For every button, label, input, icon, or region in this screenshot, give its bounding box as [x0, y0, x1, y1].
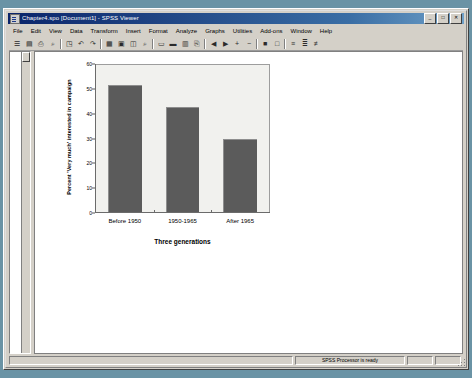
bar-chart[interactable]: Percent 'Very much' interested in campai…: [65, 60, 270, 255]
title-bar[interactable]: Chapter4.spo [Document1] - SPSS Viewer _…: [8, 13, 464, 24]
menu-data[interactable]: Data: [66, 27, 87, 36]
align-right-icon[interactable]: ≢: [311, 38, 323, 49]
redo-glyph: ↷: [90, 40, 96, 47]
bar-series: [96, 65, 269, 213]
viewer-client-area: Percent 'Very much' interested in campai…: [9, 51, 463, 354]
window-inner-frame: Chapter4.spo [Document1] - SPSS Viewer _…: [5, 10, 467, 368]
align-center-icon[interactable]: ≣: [299, 38, 311, 49]
bar[interactable]: [223, 139, 256, 213]
status-cell-1: [407, 356, 433, 365]
menu-format[interactable]: Format: [145, 27, 172, 36]
insert-text-glyph: ▥: [182, 40, 189, 47]
x-axis-ticks: Before 19501950-1965After 1965: [96, 213, 269, 225]
goto-case-glyph: ▣: [118, 40, 125, 47]
resize-grip[interactable]: [456, 357, 465, 366]
menu-add-ons[interactable]: Add-ons: [256, 27, 286, 36]
status-message: [9, 356, 293, 365]
insert-heading-glyph: ▭: [158, 40, 165, 47]
minimize-icon: _: [429, 15, 432, 20]
undo-icon[interactable]: ↶: [75, 38, 87, 49]
demote-glyph: ▶: [223, 40, 228, 47]
align-left-icon[interactable]: ≡: [287, 38, 299, 49]
align-right-glyph: ≢: [314, 40, 321, 47]
desktop-background: Chapter4.spo [Document1] - SPSS Viewer _…: [0, 0, 472, 378]
save-glyph: ▤: [26, 40, 33, 47]
maximize-icon: □: [441, 15, 444, 20]
close-button[interactable]: ✕: [450, 13, 462, 24]
menu-view[interactable]: View: [45, 27, 66, 36]
x-tick-label: After 1965: [211, 217, 269, 225]
find-icon[interactable]: ⌕: [139, 38, 151, 49]
goto-case-icon[interactable]: ▣: [115, 38, 127, 49]
x-tick-label: 1950-1965: [154, 217, 212, 225]
toolbar: ☰ ▤ ⎙ ⌕ ◳ ↶ ↷ ▦ ▣ ◫ ⌕ ▭ ▬ ▥ ⎘ ◀ ▶: [9, 37, 463, 51]
insert-title-icon[interactable]: ▬: [167, 38, 179, 49]
window-control-buttons: _ □ ✕: [424, 13, 463, 24]
find-glyph: ⌕: [143, 40, 147, 47]
align-left-glyph: ≡: [291, 40, 295, 47]
maximize-button[interactable]: □: [437, 13, 449, 24]
menu-insert[interactable]: Insert: [122, 27, 145, 36]
menu-transform[interactable]: Transform: [87, 27, 122, 36]
expand-icon[interactable]: +: [231, 38, 243, 49]
bar-slot: [154, 65, 212, 213]
export-icon[interactable]: ⎘: [191, 38, 203, 49]
show-glyph: ■: [263, 40, 267, 47]
expand-glyph: +: [235, 40, 239, 47]
undo-glyph: ↶: [78, 40, 84, 47]
print-preview-icon[interactable]: ⌕: [47, 38, 59, 49]
print-icon[interactable]: ⎙: [35, 38, 47, 49]
show-icon[interactable]: ■: [259, 38, 271, 49]
spss-viewer-icon: [10, 14, 20, 24]
x-tick-mark: [154, 210, 155, 213]
outline-pane[interactable]: [9, 51, 31, 354]
status-bar: SPSS Processor is ready: [9, 355, 463, 365]
menu-edit[interactable]: Edit: [27, 27, 45, 36]
outline-scrollbar-thumb[interactable]: [22, 52, 30, 62]
collapse-icon[interactable]: −: [243, 38, 255, 49]
menu-graphs[interactable]: Graphs: [201, 27, 229, 36]
outline-scrollbar[interactable]: [21, 52, 30, 353]
x-axis-title: Three generations: [95, 238, 270, 245]
menu-help[interactable]: Help: [316, 27, 336, 36]
menu-file[interactable]: File: [9, 27, 27, 36]
goto-data-icon[interactable]: ▦: [103, 38, 115, 49]
variables-icon[interactable]: ◫: [127, 38, 139, 49]
output-document-pane[interactable]: Percent 'Very much' interested in campai…: [34, 51, 463, 354]
minimize-button[interactable]: _: [424, 13, 436, 24]
align-center-glyph: ≣: [302, 40, 308, 47]
print-glyph: ⎙: [38, 40, 44, 47]
spss-viewer-window: Chapter4.spo [Document1] - SPSS Viewer _…: [3, 8, 469, 370]
window-title: Chapter4.spo [Document1] - SPSS Viewer: [22, 15, 424, 22]
redo-icon[interactable]: ↷: [87, 38, 99, 49]
insert-heading-icon[interactable]: ▭: [155, 38, 167, 49]
bar-slot: [211, 65, 269, 213]
status-processor-ready: SPSS Processor is ready: [295, 356, 405, 365]
print-preview-glyph: ⌕: [51, 40, 55, 47]
y-axis-ticks: 0102030405060: [75, 64, 95, 213]
x-tick-mark: [211, 210, 212, 213]
promote-glyph: ◀: [211, 40, 216, 47]
demote-icon[interactable]: ▶: [219, 38, 231, 49]
menu-window[interactable]: Window: [287, 27, 316, 36]
close-icon: ✕: [454, 15, 458, 20]
variables-glyph: ◫: [130, 40, 137, 47]
bar[interactable]: [166, 107, 199, 213]
hide-icon[interactable]: □: [271, 38, 283, 49]
recall-dialog-icon[interactable]: ◳: [63, 38, 75, 49]
collapse-glyph: −: [247, 40, 251, 47]
open-file-icon[interactable]: ☰: [11, 38, 23, 49]
bar[interactable]: [108, 85, 141, 213]
menu-analyze[interactable]: Analyze: [172, 27, 201, 36]
insert-title-glyph: ▬: [170, 40, 177, 47]
insert-text-icon[interactable]: ▥: [179, 38, 191, 49]
menu-bar: File Edit View Data Transform Insert For…: [9, 26, 463, 36]
menu-utilities[interactable]: Utilities: [229, 27, 256, 36]
goto-data-glyph: ▦: [106, 40, 113, 47]
recall-dialog-glyph: ◳: [66, 40, 73, 47]
y-axis-title-text: Percent 'Very much' interested in campai…: [66, 79, 72, 195]
open-file-glyph: ☰: [14, 40, 20, 47]
save-icon[interactable]: ▤: [23, 38, 35, 49]
promote-icon[interactable]: ◀: [207, 38, 219, 49]
y-axis-title: Percent 'Very much' interested in campai…: [64, 60, 74, 213]
